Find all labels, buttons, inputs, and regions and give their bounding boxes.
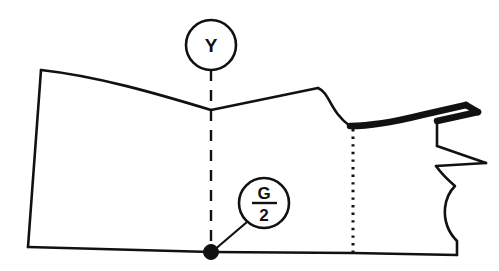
y-callout[interactable]: Y (186, 20, 236, 70)
g-over-2-leader-line (213, 222, 247, 251)
shoulder-notch-curve (318, 88, 350, 126)
pattern-diagram-canvas: Y G 2 (0, 0, 499, 271)
top-left-contour-curve (41, 70, 211, 110)
construction-lines-group (211, 70, 353, 252)
right-notch-vee-out (437, 146, 486, 163)
pattern-drawing: Y G 2 (0, 0, 499, 271)
right-side-seam-curve (436, 166, 457, 255)
g-over-2-denominator: 2 (259, 206, 268, 225)
g-over-2-numerator: G (257, 184, 270, 203)
origin-point-dot (204, 245, 219, 260)
y-callout-label: Y (205, 35, 218, 56)
bottom-hem-line (28, 247, 457, 255)
left-edge-line (28, 70, 41, 247)
right-notch-vee-in (436, 163, 486, 166)
top-right-contour-line (211, 88, 318, 110)
g-over-2-callout[interactable]: G 2 (239, 178, 289, 228)
leader-lines-group (213, 222, 247, 251)
